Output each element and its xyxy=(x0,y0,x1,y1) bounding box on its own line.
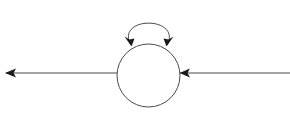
diagram-svg xyxy=(0,0,290,115)
self-loop-arrow-right-icon xyxy=(164,37,174,47)
self-loop-arrow-left-icon xyxy=(125,37,135,47)
state-node-circle xyxy=(117,44,180,107)
diagram-canvas xyxy=(0,0,290,115)
self-loop-arc xyxy=(128,23,169,44)
